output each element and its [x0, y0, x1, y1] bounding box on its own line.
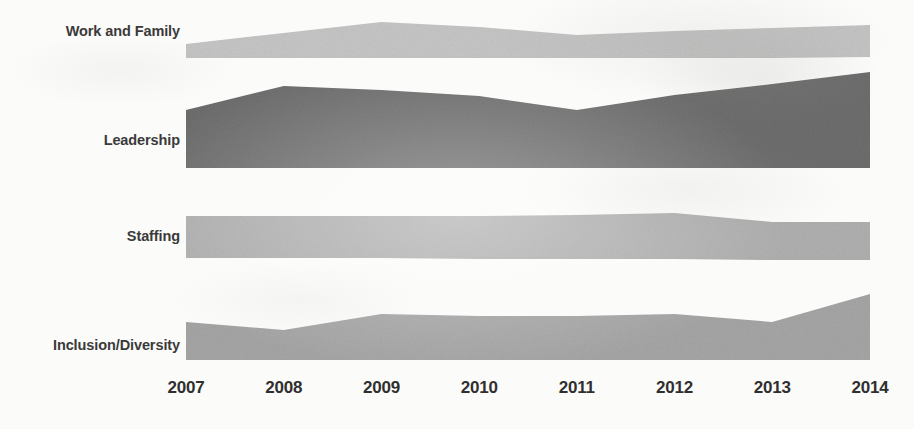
band-staffing: [186, 213, 870, 260]
year-label-2007: 2007: [146, 378, 226, 398]
band-inclusion-diversity: [186, 294, 870, 360]
series-label-inclusion-diversity: Inclusion/Diversity: [0, 337, 180, 353]
year-label-2010: 2010: [439, 378, 519, 398]
year-label-2013: 2013: [732, 378, 812, 398]
band-work-and-family: [186, 22, 870, 58]
year-label-2009: 2009: [341, 378, 421, 398]
series-label-staffing: Staffing: [0, 228, 180, 244]
chart-plot-area: [0, 0, 914, 429]
series-label-leadership: Leadership: [0, 132, 180, 148]
x-axis-year-labels: 20072008200920102011201220132014: [0, 378, 914, 408]
stream-area-chart: Work and Family Leadership Staffing Incl…: [0, 0, 914, 429]
year-label-2011: 2011: [537, 378, 617, 398]
year-label-2008: 2008: [244, 378, 324, 398]
series-label-work-and-family: Work and Family: [0, 23, 180, 39]
year-label-2012: 2012: [635, 378, 715, 398]
band-leadership: [186, 72, 870, 168]
year-label-2014: 2014: [830, 378, 910, 398]
area-bands-group: [186, 22, 870, 360]
